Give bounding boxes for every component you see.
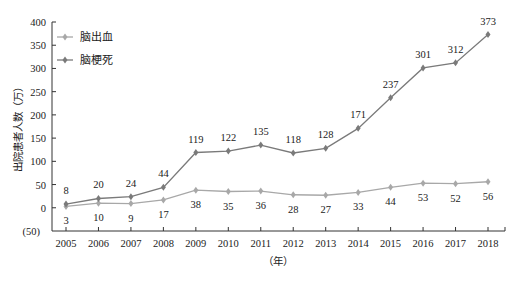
diamond-marker-icon	[388, 184, 393, 191]
diamond-marker-icon	[63, 57, 68, 64]
data-label: 33	[353, 201, 364, 212]
y-tick-label: 0	[41, 203, 46, 214]
diamond-marker-icon	[486, 31, 491, 38]
diamond-marker-icon	[226, 148, 231, 155]
data-label: 119	[188, 134, 203, 145]
x-tick-label: 2014	[348, 238, 370, 249]
y-axis: 400350300250200150100500(50)	[23, 17, 57, 238]
diamond-marker-icon	[96, 195, 101, 202]
data-label: 38	[191, 199, 202, 210]
series-layer: 3109173835362827334453525682024441191221…	[63, 16, 496, 227]
diamond-marker-icon	[453, 180, 458, 187]
diamond-marker-icon	[258, 188, 263, 195]
data-label: 301	[415, 49, 431, 60]
x-axis-title: （年）	[263, 255, 293, 267]
data-label: 128	[318, 129, 334, 140]
data-label: 27	[320, 204, 331, 215]
data-label: 44	[385, 196, 396, 207]
data-label: 9	[128, 213, 133, 224]
data-label: 122	[220, 132, 236, 143]
y-tick-label: (50)	[23, 226, 41, 238]
x-tick-label: 2012	[283, 238, 304, 249]
y-tick-label: 50	[36, 180, 47, 191]
data-label: 10	[93, 212, 104, 223]
y-tick-label: 300	[30, 63, 46, 74]
diamond-marker-icon	[323, 192, 328, 199]
diamond-marker-icon	[128, 193, 133, 200]
y-tick-label: 150	[30, 133, 46, 144]
data-label: 171	[350, 109, 366, 120]
legend-label: 脑梗死	[80, 53, 113, 67]
legend: 脑出血脑梗死	[57, 30, 113, 67]
diamond-marker-icon	[63, 34, 68, 41]
y-tick-label: 400	[30, 17, 46, 28]
series-cerebral-infarction: 8202444119122135118128171237301312373	[63, 16, 496, 208]
data-label: 237	[383, 79, 399, 90]
data-label: 35	[223, 201, 234, 212]
diamond-marker-icon	[356, 189, 361, 196]
data-label: 28	[288, 204, 299, 215]
diamond-marker-icon	[323, 145, 328, 152]
diamond-marker-icon	[486, 178, 491, 185]
data-label: 8	[63, 185, 68, 196]
data-label: 53	[418, 192, 429, 203]
diamond-marker-icon	[291, 149, 296, 156]
x-tick-label: 2005	[56, 238, 77, 249]
y-tick-label: 200	[30, 110, 46, 121]
legend-item: 脑出血	[57, 30, 113, 44]
data-label: 135	[253, 126, 269, 137]
data-label: 20	[93, 179, 104, 190]
data-label: 44	[158, 168, 169, 179]
diamond-marker-icon	[421, 180, 426, 187]
line-chart: 400350300250200150100500(50) 20052006200…	[0, 0, 522, 282]
y-tick-label: 250	[30, 87, 46, 98]
y-tick-label: 350	[30, 40, 46, 51]
x-tick-label: 2006	[88, 238, 109, 249]
diamond-marker-icon	[161, 196, 166, 203]
x-tick-label: 2018	[478, 238, 499, 249]
diamond-marker-icon	[258, 142, 263, 149]
x-tick-label: 2011	[250, 238, 271, 249]
x-tick-label: 2013	[315, 238, 336, 249]
diamond-marker-icon	[226, 188, 231, 195]
x-tick-label: 2007	[120, 238, 141, 249]
data-label: 56	[483, 191, 494, 202]
legend-label: 脑出血	[80, 30, 113, 44]
diamond-marker-icon	[453, 59, 458, 66]
data-label: 17	[158, 209, 169, 220]
diamond-marker-icon	[291, 191, 296, 198]
y-tick-label: 100	[30, 156, 46, 167]
x-axis: 2005200620072008200920102011201220132014…	[52, 227, 505, 249]
y-axis-title: 出院患者人数（万）	[12, 82, 24, 172]
x-tick-label: 2016	[413, 238, 434, 249]
data-label: 36	[256, 200, 267, 211]
data-label: 373	[480, 16, 496, 27]
data-label: 312	[448, 44, 464, 55]
data-label: 24	[126, 178, 137, 189]
diamond-marker-icon	[128, 200, 133, 207]
data-label: 3	[63, 215, 68, 226]
x-tick-label: 2009	[185, 238, 206, 249]
x-tick-label: 2010	[218, 238, 239, 249]
legend-item: 脑梗死	[57, 53, 113, 67]
diamond-marker-icon	[193, 187, 198, 194]
data-label: 118	[286, 134, 301, 145]
x-tick-label: 2015	[380, 238, 401, 249]
x-tick-label: 2017	[445, 238, 466, 249]
data-label: 52	[450, 193, 461, 204]
x-tick-label: 2008	[153, 238, 174, 249]
